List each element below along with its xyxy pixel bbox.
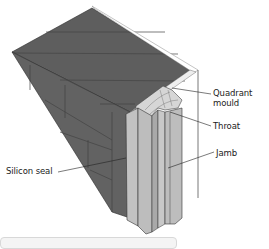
jamb-groove-2 <box>158 110 165 228</box>
jamb-main-face <box>138 108 152 234</box>
label-silicon-seal: Silicon seal <box>6 166 52 176</box>
label-quadrant-mould: Quadrant mould <box>213 88 252 108</box>
label-quadrant-line1: Quadrant <box>213 88 252 98</box>
label-throat: Throat <box>213 121 240 131</box>
caption-box <box>0 237 177 249</box>
label-quadrant-line2: mould <box>213 98 252 108</box>
jamb-front-face <box>126 108 138 226</box>
label-jamb: Jamb <box>216 148 237 158</box>
jamb-groove-1 <box>152 110 158 232</box>
leader-quadrant <box>172 88 211 94</box>
